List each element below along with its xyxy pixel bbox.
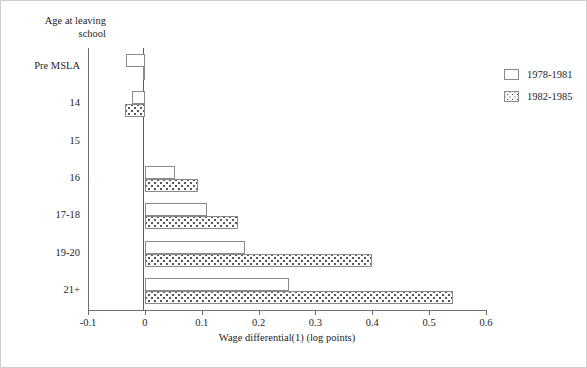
- wage-differential-bar-chart: Age at leaving school -0.100.10.20.30.40…: [0, 0, 587, 368]
- bar-series-1978-1981: [145, 166, 175, 179]
- plot-area: -0.100.10.20.30.40.50.6Pre MSLA14151617-…: [88, 48, 486, 310]
- x-axis-tick: [486, 310, 487, 315]
- y-axis-category-label: Pre MSLA: [0, 60, 80, 71]
- bar-series-1978-1981: [132, 91, 145, 104]
- legend-swatch-dotted: [504, 91, 519, 102]
- x-axis-tick-label: 0.4: [352, 317, 392, 328]
- bar-series-1982-1985: [145, 179, 198, 192]
- legend-label: 1982-1985: [527, 91, 573, 102]
- x-axis-tick-label: 0: [125, 317, 165, 328]
- x-axis-tick-label: 0.3: [295, 317, 335, 328]
- x-axis-tick-label: 0.1: [182, 317, 222, 328]
- bar-series-1978-1981: [145, 278, 289, 291]
- x-axis-tick: [429, 310, 430, 315]
- x-axis-tick: [259, 310, 260, 315]
- category-row: 14: [88, 85, 486, 122]
- x-axis-tick-label: 0.2: [239, 317, 279, 328]
- legend-label: 1978-1981: [527, 69, 573, 80]
- x-axis-line: [88, 310, 486, 311]
- x-axis-tick: [88, 310, 89, 315]
- chart-legend: 1978-19811982-1985: [504, 66, 573, 110]
- x-axis-tick: [315, 310, 316, 315]
- category-row: Pre MSLA: [88, 48, 486, 85]
- bar-series-1982-1985: [145, 216, 238, 229]
- category-row: 15: [88, 123, 486, 160]
- bar-series-1982-1985: [145, 254, 372, 267]
- y-axis-category-label: 17-18: [0, 209, 80, 220]
- y-axis-category-label: 14: [0, 97, 80, 108]
- bar-series-1982-1985: [143, 67, 145, 80]
- y-axis-category-label: 16: [0, 172, 80, 183]
- category-row: 17-18: [88, 198, 486, 235]
- category-row: 16: [88, 160, 486, 197]
- legend-item: 1978-1981: [504, 66, 573, 83]
- y-axis-category-label: 21+: [0, 284, 80, 295]
- bar-series-1982-1985: [145, 291, 453, 304]
- bar-series-1982-1985: [125, 104, 145, 117]
- x-axis-tick: [145, 310, 146, 315]
- category-row: 21+: [88, 273, 486, 310]
- bar-series-1978-1981: [145, 241, 245, 254]
- y-axis-category-label: 15: [0, 135, 80, 146]
- legend-swatch-empty: [504, 69, 519, 80]
- category-row: 19-20: [88, 235, 486, 272]
- x-axis-title: Wage differential(1) (log points): [88, 332, 486, 343]
- y-axis-title: Age at leaving school: [6, 14, 106, 40]
- x-axis-tick-label: 0.5: [409, 317, 449, 328]
- x-axis-tick-label: -0.1: [68, 317, 108, 328]
- x-axis-tick: [202, 310, 203, 315]
- x-axis-tick: [372, 310, 373, 315]
- x-axis-tick-label: 0.6: [466, 317, 506, 328]
- bar-series-1978-1981: [126, 54, 145, 67]
- legend-item: 1982-1985: [504, 88, 573, 105]
- y-axis-category-label: 19-20: [0, 247, 80, 258]
- bar-series-1978-1981: [145, 203, 207, 216]
